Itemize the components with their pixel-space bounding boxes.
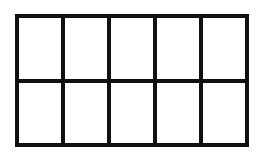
grid-cell-r1-c4 [157, 18, 199, 79]
grid-cell-r1-c1 [19, 18, 61, 79]
rectangle-grid [15, 14, 249, 147]
grid-cell-r1-c3 [111, 18, 153, 79]
grid-cell-r1-c5 [203, 18, 245, 79]
grid-cell-r2-c5 [203, 83, 245, 144]
grid-cell-r2-c3 [111, 83, 153, 144]
grid-cell-r2-c4 [157, 83, 199, 144]
grid-cell-r1-c2 [65, 18, 107, 79]
grid-cell-r2-c1 [19, 83, 61, 144]
grid-cell-r2-c2 [65, 83, 107, 144]
